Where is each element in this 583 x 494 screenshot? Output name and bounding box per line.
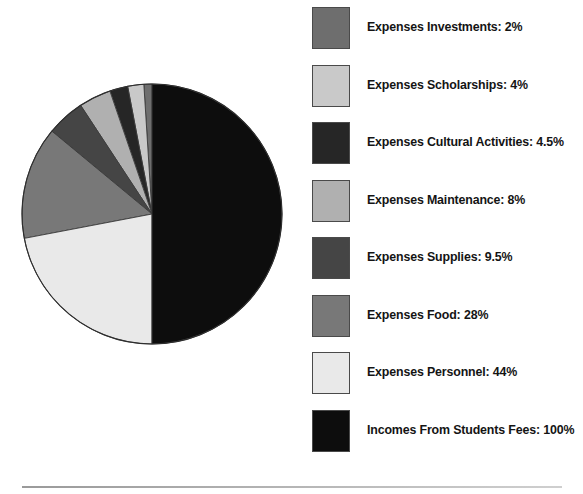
- legend-item-label: Expenses Investments: 2%: [367, 21, 522, 35]
- legend-item[interactable]: Expenses Supplies: 9.5%: [312, 236, 512, 280]
- legend-item[interactable]: Expenses Maintenance: 8%: [312, 179, 525, 223]
- legend-color-swatch: [312, 65, 350, 107]
- legend-item[interactable]: Expenses Cultural Activities: 4.5%: [312, 121, 564, 165]
- bottom-divider: [22, 486, 562, 488]
- legend-item[interactable]: Expenses Food: 28%: [312, 294, 488, 338]
- pie-chart-plot-area: [18, 78, 290, 353]
- pie-chart-figure: Expenses Investments: 2%Expenses Scholar…: [0, 0, 583, 494]
- legend-color-swatch: [312, 237, 350, 279]
- legend-item-label: Expenses Scholarships: 4%: [367, 79, 528, 93]
- legend-color-swatch: [312, 180, 350, 222]
- legend-item[interactable]: Expenses Personnel: 44%: [312, 351, 517, 395]
- legend-item-label: Incomes From Students Fees: 100%: [367, 424, 574, 438]
- legend-item-label: Expenses Maintenance: 8%: [367, 194, 525, 208]
- legend-item-label: Expenses Supplies: 9.5%: [367, 251, 512, 265]
- legend-item[interactable]: Expenses Scholarships: 4%: [312, 64, 528, 108]
- legend-color-swatch: [312, 352, 350, 394]
- legend-item[interactable]: Expenses Investments: 2%: [312, 6, 522, 50]
- legend-color-swatch: [312, 295, 350, 337]
- legend-item-label: Expenses Food: 28%: [367, 309, 488, 323]
- chart-legend: Expenses Investments: 2%Expenses Scholar…: [312, 6, 580, 464]
- legend-item-label: Expenses Personnel: 44%: [367, 366, 517, 380]
- pie-chart-svg: [18, 78, 290, 353]
- pie-slice-group: [22, 84, 282, 344]
- legend-color-swatch: [312, 122, 350, 164]
- legend-color-swatch: [312, 7, 350, 49]
- legend-item-label: Expenses Cultural Activities: 4.5%: [367, 136, 564, 150]
- legend-color-swatch: [312, 410, 350, 452]
- legend-item[interactable]: Incomes From Students Fees: 100%: [312, 409, 574, 453]
- pie-slice[interactable]: [152, 84, 282, 344]
